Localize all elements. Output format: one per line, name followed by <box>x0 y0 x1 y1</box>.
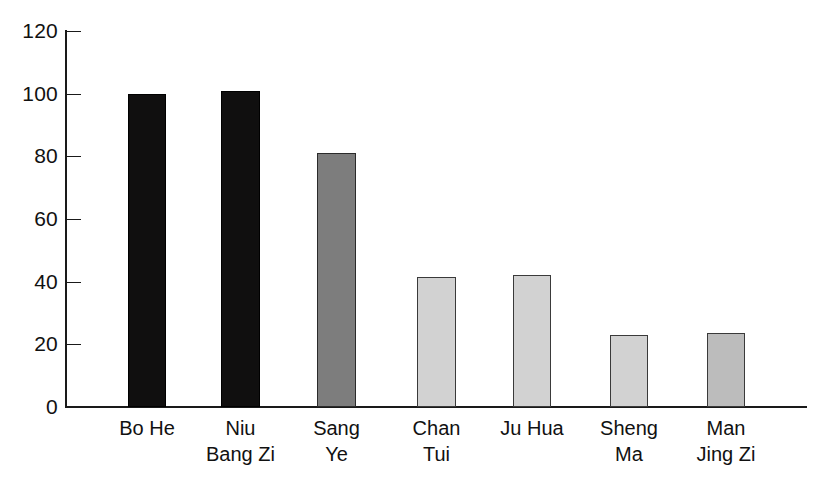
y-axis-tick <box>67 31 81 32</box>
y-axis-tick-label: 20 <box>14 333 58 354</box>
y-axis-tick-label: 0 <box>14 396 58 417</box>
bar <box>317 153 356 407</box>
bar <box>610 335 648 407</box>
y-axis-tick <box>67 282 81 283</box>
y-axis-tick-label: 120 <box>14 20 58 41</box>
bar <box>513 275 551 407</box>
plot-area: 120100806040200 Bo HeNiu Bang ZiSang YeC… <box>0 0 829 482</box>
y-axis-tick <box>67 219 81 220</box>
y-axis-tick-label: 60 <box>14 208 58 229</box>
bar <box>221 91 260 407</box>
y-axis-tick <box>67 344 81 345</box>
y-axis-tick <box>67 407 81 408</box>
y-axis-tick-label: 80 <box>14 145 58 166</box>
bar <box>128 94 166 407</box>
x-axis-category-label: Man Jing Zi <box>666 416 786 467</box>
y-axis-tick-label: 100 <box>14 83 58 104</box>
y-axis-tick-label: 40 <box>14 271 58 292</box>
bar <box>417 277 456 407</box>
y-axis-tick <box>67 156 81 157</box>
bar <box>707 333 745 407</box>
y-axis-tick <box>67 94 81 95</box>
bar-chart: 120100806040200 Bo HeNiu Bang ZiSang YeC… <box>0 0 829 482</box>
